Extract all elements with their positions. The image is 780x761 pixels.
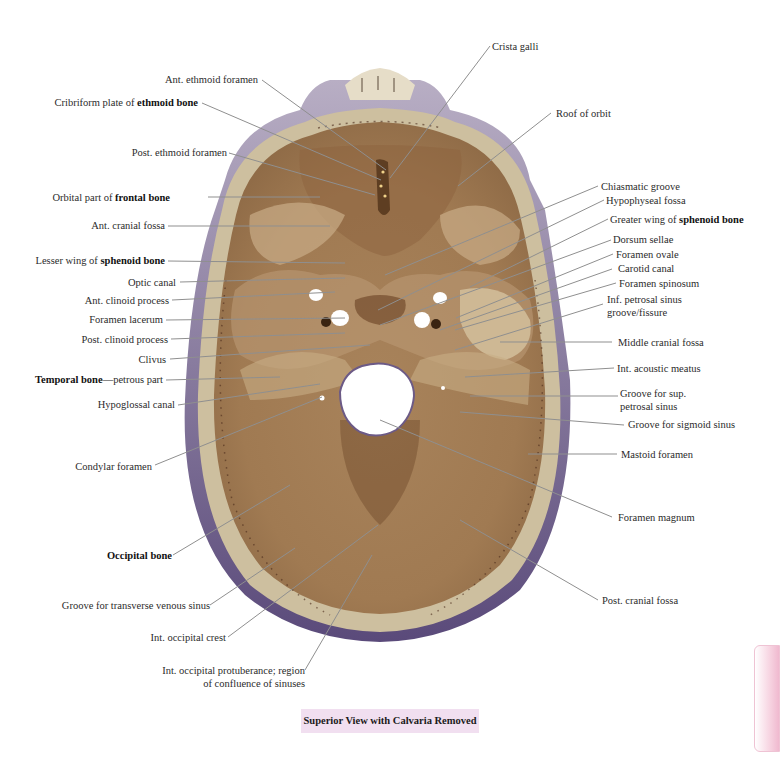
label-post-clinoid-process: Post. clinoid process bbox=[81, 333, 168, 346]
label-int-occipital-crest: Int. occipital crest bbox=[150, 631, 226, 644]
label-occipital-bone: Occipital bone bbox=[107, 549, 172, 562]
label-foramen-lacerum: Foramen lacerum bbox=[89, 313, 163, 326]
label-condylar-foramen: Condylar foramen bbox=[75, 460, 152, 473]
label-int-occipital-protuberance: Int. occipital protuberance; regionof co… bbox=[162, 664, 305, 690]
figure-caption: Superior View with Calvaria Removed bbox=[301, 709, 479, 733]
label-mastoid-foramen: Mastoid foramen bbox=[621, 448, 693, 461]
label-hypoglossal-canal: Hypoglossal canal bbox=[98, 398, 175, 411]
label-groove-transverse-sinus: Groove for transverse venous sinus bbox=[62, 599, 210, 612]
label-roof-of-orbit: Roof of orbit bbox=[556, 107, 611, 120]
label-optic-canal: Optic canal bbox=[128, 276, 176, 289]
label-clivus: Clivus bbox=[139, 353, 166, 366]
label-dorsum-sellae: Dorsum sellae bbox=[613, 233, 673, 246]
label-ant-clinoid-process: Ant. clinoid process bbox=[85, 294, 169, 307]
label-middle-cranial-fossa: Middle cranial fossa bbox=[618, 336, 704, 349]
label-chiasmatic-groove: Chiasmatic groove bbox=[601, 180, 680, 193]
label-ant-ethmoid-foramen: Ant. ethmoid foramen bbox=[165, 73, 258, 86]
label-ant-cranial-fossa: Ant. cranial fossa bbox=[91, 219, 165, 232]
label-cribriform-plate: Cribriform plate of ethmoid bone bbox=[55, 96, 199, 109]
label-lesser-wing-sphenoid: Lesser wing of sphenoid bone bbox=[35, 254, 165, 267]
label-carotid-canal: Carotid canal bbox=[618, 262, 674, 275]
label-foramen-ovale: Foramen ovale bbox=[616, 248, 679, 261]
label-foramen-magnum: Foramen magnum bbox=[618, 511, 695, 524]
label-groove-sup-petrosal: Groove for sup.petrosal sinus bbox=[620, 387, 686, 413]
label-temporal-bone-petrous: Temporal bone—petrous part bbox=[35, 373, 163, 386]
label-int-acoustic-meatus: Int. acoustic meatus bbox=[617, 362, 701, 375]
label-greater-wing-sphenoid: Greater wing of sphenoid bone bbox=[610, 213, 744, 226]
label-post-ethmoid-foramen: Post. ethmoid foramen bbox=[132, 146, 227, 159]
frontal-crest-detail bbox=[345, 68, 415, 100]
label-post-cranial-fossa: Post. cranial fossa bbox=[602, 594, 678, 607]
label-crista-galli: Crista galli bbox=[492, 40, 538, 53]
label-hypophyseal-fossa: Hypophyseal fossa bbox=[606, 194, 686, 207]
label-groove-sigmoid-sinus: Groove for sigmoid sinus bbox=[628, 418, 735, 431]
label-foramen-spinosum: Foramen spinosum bbox=[619, 277, 699, 290]
label-inf-petrosal-sinus: Inf. petrosal sinusgroove/fissure bbox=[607, 293, 682, 319]
page-edge-tab bbox=[754, 645, 780, 752]
foramen-magnum-opening bbox=[340, 363, 414, 435]
label-orbital-part-frontal: Orbital part of frontal bone bbox=[52, 191, 170, 204]
